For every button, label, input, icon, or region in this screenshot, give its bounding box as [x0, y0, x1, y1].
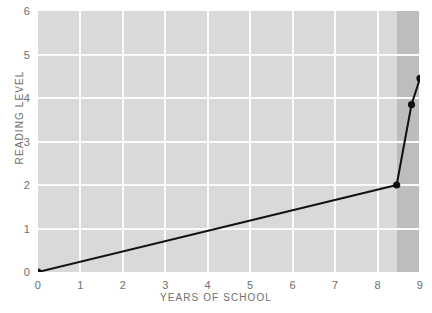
x-axis-title: YEARS OF SCHOOL — [0, 292, 432, 303]
y-tick-label: 2 — [0, 180, 30, 191]
y-tick-label: 5 — [0, 50, 30, 61]
y-axis-title: READING LEVEL — [14, 63, 25, 173]
series-line — [38, 78, 420, 272]
plot-area — [38, 11, 420, 272]
data-point-marker — [416, 75, 420, 82]
y-tick-label: 1 — [0, 224, 30, 235]
y-tick-label: 0 — [0, 267, 30, 278]
x-tick-label: 3 — [150, 280, 180, 291]
chart-figure: 0123456 0123456789 READING LEVEL YEARS O… — [0, 0, 432, 313]
data-point-marker — [408, 101, 415, 108]
y-tick-label: 6 — [0, 6, 30, 17]
x-tick-label: 4 — [193, 280, 223, 291]
x-tick-label: 8 — [363, 280, 393, 291]
x-tick-label: 1 — [65, 280, 95, 291]
data-point-marker — [38, 268, 42, 272]
data-series-layer — [38, 11, 420, 272]
x-tick-label: 9 — [405, 280, 432, 291]
x-tick-label: 5 — [235, 280, 265, 291]
x-tick-label: 0 — [23, 280, 53, 291]
x-tick-label: 2 — [108, 280, 138, 291]
data-point-marker — [393, 181, 400, 188]
x-tick-label: 7 — [320, 280, 350, 291]
x-tick-label: 6 — [278, 280, 308, 291]
